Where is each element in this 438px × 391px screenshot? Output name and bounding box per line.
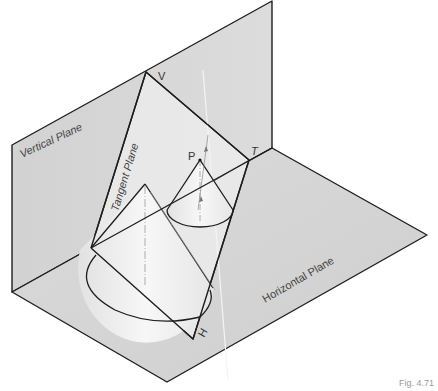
figure-caption: Fig. 4.71 bbox=[399, 378, 434, 388]
tangent-plane-diagram: Vertical Plane Tangent Plane Horizontal … bbox=[0, 0, 438, 391]
point-p-label: P bbox=[188, 150, 195, 162]
point-p-marker bbox=[198, 158, 201, 161]
point-v-label: V bbox=[158, 70, 166, 82]
